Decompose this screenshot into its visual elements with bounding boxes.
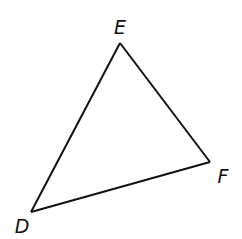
edge-fd: [31, 162, 210, 212]
edge-de: [31, 43, 120, 212]
vertex-label-e: E: [114, 16, 126, 38]
vertex-label-f: F: [218, 165, 230, 187]
edge-ef: [120, 43, 210, 162]
triangle-def-diagram: E F D: [0, 0, 242, 239]
vertex-label-d: D: [15, 215, 30, 237]
